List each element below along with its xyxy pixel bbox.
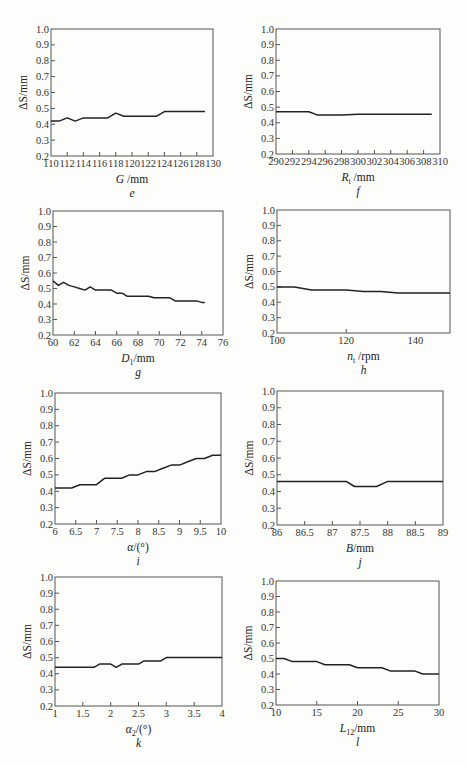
y-tick-label: 1.0 <box>40 572 53 583</box>
y-tick-label: 0.7 <box>262 251 275 262</box>
panel-letter: j <box>356 556 361 569</box>
y-tick-label: 1.0 <box>261 24 274 35</box>
x-tick-label: 308 <box>416 156 432 167</box>
y-tick-label: 0.3 <box>261 684 274 695</box>
x-tick-label: 120 <box>338 335 354 346</box>
y-tick-label: 0.3 <box>262 312 275 323</box>
x-tick-label: 87 <box>327 527 338 538</box>
x-tick-label: 292 <box>285 156 301 167</box>
y-tick-label: 0.9 <box>261 591 274 602</box>
y-tick-label: 0.8 <box>36 55 49 66</box>
x-tick-label: 88.5 <box>406 527 424 538</box>
x-tick-label: 20 <box>352 707 363 718</box>
y-tick-label: 0.7 <box>262 436 275 447</box>
x-tick-label: 62 <box>69 337 80 348</box>
y-tick-label: 0.5 <box>36 103 49 114</box>
x-tick-label: 294 <box>301 156 318 167</box>
chart-panel-k: 0.20.30.40.50.60.70.80.91.011.522.533.54… <box>21 572 225 750</box>
y-tick-label: 0.7 <box>40 620 53 631</box>
y-tick-label: 0.4 <box>262 486 276 497</box>
y-tick-label: 0.5 <box>261 102 274 113</box>
x-axis-title: D1/mm <box>120 352 154 367</box>
y-tick-label: 0.4 <box>36 119 50 130</box>
x-tick-label: 110 <box>43 158 58 169</box>
plot-frame <box>53 211 223 335</box>
y-axis-title: ΔS/mm <box>242 626 254 661</box>
y-tick-label: 0.5 <box>40 652 53 663</box>
y-tick-label: 1.0 <box>40 388 53 399</box>
x-tick-label: 6.5 <box>69 526 82 537</box>
x-tick-label: 10 <box>216 526 227 537</box>
chart-panel-j: 0.20.30.40.50.60.70.80.91.08686.58787.58… <box>243 386 448 570</box>
x-tick-label: 1.5 <box>76 708 89 719</box>
x-tick-label: 3 <box>164 708 169 719</box>
x-tick-label: 116 <box>92 158 107 169</box>
x-tick-label: 60 <box>48 337 59 348</box>
plot-frame <box>276 581 439 705</box>
x-tick-label: 7.5 <box>111 526 124 537</box>
x-tick-label: 124 <box>157 158 174 169</box>
x-tick-label: 8 <box>135 526 140 537</box>
y-tick-label: 0.5 <box>38 283 51 294</box>
y-tick-label: 0.6 <box>36 87 49 98</box>
y-tick-label: 0.3 <box>262 503 275 514</box>
y-tick-label: 0.5 <box>262 281 275 292</box>
y-tick-label: 0.5 <box>262 469 275 480</box>
x-tick-label: 25 <box>393 707 404 718</box>
data-series-line <box>55 455 221 488</box>
x-tick-label: 1 <box>52 708 57 719</box>
chart-panel-g: 0.20.30.40.50.60.70.80.91.06062646668707… <box>19 206 228 380</box>
y-tick-label: 0.6 <box>40 636 53 647</box>
y-tick-label: 0.6 <box>38 268 51 279</box>
y-tick-label: 1.0 <box>262 205 275 216</box>
x-axis-title: α2/(°) <box>126 723 152 738</box>
x-tick-label: 2.5 <box>132 708 145 719</box>
x-tick-label: 310 <box>432 156 448 167</box>
x-tick-label: 89 <box>438 527 449 538</box>
x-tick-label: 7 <box>94 526 99 537</box>
x-tick-label: 304 <box>383 156 400 167</box>
y-tick-label: 0.9 <box>36 39 49 50</box>
x-tick-label: 70 <box>154 337 165 348</box>
y-tick-label: 0.8 <box>262 235 275 246</box>
y-axis-title: ΔS/mm <box>243 254 255 289</box>
y-tick-label: 1.0 <box>261 576 274 587</box>
x-tick-label: 126 <box>173 158 189 169</box>
x-tick-label: 86 <box>272 527 283 538</box>
x-tick-label: 306 <box>399 156 415 167</box>
plot-frame <box>277 210 450 333</box>
y-tick-label: 0.6 <box>40 453 53 464</box>
chart-panel-e: 0.20.30.40.50.60.70.80.91.01101121141161… <box>17 24 221 200</box>
data-series-line <box>277 287 450 293</box>
y-tick-label: 0.4 <box>261 669 275 680</box>
data-series-line <box>277 481 443 486</box>
y-tick-label: 0.8 <box>38 237 51 248</box>
y-tick-label: 0.4 <box>262 297 276 308</box>
y-tick-label: 0.3 <box>36 135 49 146</box>
chart-panel-i: 0.20.30.40.50.60.70.80.91.066.577.588.59… <box>21 388 226 568</box>
x-tick-label: 2 <box>108 708 113 719</box>
y-tick-label: 0.7 <box>40 437 53 448</box>
x-axis-title: L12/mm <box>339 722 376 737</box>
y-tick-label: 0.6 <box>261 638 274 649</box>
panel-letter: g <box>135 366 141 379</box>
x-tick-label: 296 <box>317 156 333 167</box>
y-tick-label: 0.8 <box>40 420 53 431</box>
x-tick-label: 6 <box>52 526 57 537</box>
x-tick-label: 140 <box>408 335 424 346</box>
x-axis-title: G /mm <box>116 173 148 185</box>
data-series-line <box>276 659 439 675</box>
y-tick-label: 0.9 <box>40 588 53 599</box>
chart-panel-l: 0.20.30.40.50.60.70.80.91.01015202530ΔS/… <box>242 576 444 749</box>
x-tick-label: 4 <box>219 708 225 719</box>
x-tick-label: 300 <box>350 156 366 167</box>
y-axis-title: ΔS/mm <box>21 624 33 659</box>
panel-letter: f <box>356 185 361 198</box>
x-tick-label: 87.5 <box>351 527 369 538</box>
x-tick-label: 30 <box>434 707 445 718</box>
x-tick-label: 120 <box>124 158 140 169</box>
x-tick-label: 76 <box>218 337 229 348</box>
x-tick-label: 122 <box>140 158 156 169</box>
panel-letter: l <box>356 736 359 748</box>
plot-frame <box>277 391 443 525</box>
